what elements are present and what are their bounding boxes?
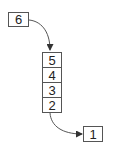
stack-item: 3	[42, 82, 62, 98]
outgoing-node-label: 1	[89, 128, 96, 141]
stack-item-label: 5	[48, 54, 55, 67]
incoming-node-label: 6	[15, 13, 22, 26]
incoming-node: 6	[8, 12, 29, 27]
outgoing-node: 1	[83, 126, 103, 142]
stack: 5 4 3 2	[42, 52, 62, 113]
stack-item: 2	[42, 97, 62, 113]
stack-item-label: 3	[48, 84, 55, 97]
stack-item-label: 2	[48, 99, 55, 112]
push-arrow	[29, 20, 50, 50]
stack-item: 5	[42, 52, 62, 68]
stack-item: 4	[42, 67, 62, 83]
stack-item-label: 4	[48, 69, 55, 82]
pop-arrow	[50, 113, 82, 134]
